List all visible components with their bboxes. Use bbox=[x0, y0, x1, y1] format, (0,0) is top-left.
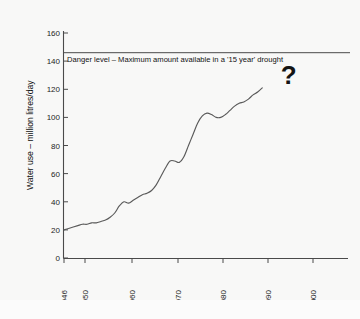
y-tick-label-160: 160 bbox=[47, 29, 61, 38]
danger-level-label: Danger level – Maximum amount available … bbox=[67, 55, 284, 64]
chart-screenshot: 160 140 120 100 80 60 40 20 0 Water use … bbox=[0, 0, 360, 319]
x-tick-label-1950: 1950 bbox=[81, 289, 90, 300]
y-tick-label-20: 20 bbox=[51, 226, 60, 235]
question-mark-annotation: ? bbox=[281, 60, 297, 90]
x-tick-label-2000: 2000 bbox=[309, 289, 318, 300]
y-tick-label-80: 80 bbox=[51, 142, 60, 151]
water-use-line-chart: 160 140 120 100 80 60 40 20 0 Water use … bbox=[0, 0, 360, 300]
y-axis-title: Water use – million litres/day bbox=[25, 80, 35, 190]
chart-canvas: 160 140 120 100 80 60 40 20 0 Water use … bbox=[0, 0, 360, 300]
y-tick-label-40: 40 bbox=[51, 198, 60, 207]
x-tick-label-1970: 1970 bbox=[174, 289, 183, 300]
x-axis-ticks bbox=[64, 259, 313, 264]
x-tick-label-1980: 1980 bbox=[219, 289, 228, 300]
y-tick-label-60: 60 bbox=[51, 170, 60, 179]
y-tick-label-100: 100 bbox=[47, 113, 61, 122]
water-use-series-line bbox=[64, 88, 262, 230]
y-tick-label-120: 120 bbox=[47, 85, 61, 94]
x-tick-label-1960: 1960 bbox=[128, 289, 137, 300]
y-tick-label-140: 140 bbox=[47, 57, 61, 66]
caption-strip bbox=[0, 300, 360, 319]
x-tick-label-1990: 1990 bbox=[264, 289, 273, 300]
x-tick-label-1946: 1946 bbox=[60, 289, 69, 300]
y-axis-ticks bbox=[64, 33, 69, 258]
y-tick-label-0: 0 bbox=[56, 254, 61, 263]
